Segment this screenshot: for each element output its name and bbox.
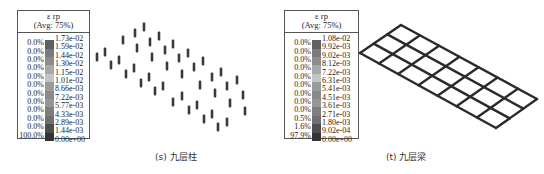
column-element [193,63,196,72]
caption-t: (t) 九层梁 [386,150,426,163]
legend-value: 0.00e+00 [55,136,85,144]
column-element [188,106,191,115]
legend-color-swatch [45,124,54,132]
column-element [149,38,152,47]
column-element [187,49,190,58]
column-element [133,64,136,73]
column-element [143,23,146,32]
column-element [211,110,214,119]
column-element [110,61,113,70]
legend-color-swatch [45,99,54,107]
column-element [148,73,151,82]
column-element [220,68,223,77]
legend-color-swatch [312,116,321,124]
column-element [178,54,181,63]
column-element [122,36,125,45]
legend-color-swatch [312,82,321,90]
legend-t: ε rp (Avg: 75%) 1.08e-029.92e-039.02e-03… [284,10,359,139]
legend-percent: 100.0% [18,132,44,140]
column-element [226,82,229,91]
column-element [214,89,217,98]
caption-s: (s) 九层柱 [155,150,197,163]
column-element [181,92,184,101]
legend-color-swatch [312,99,321,107]
column-element [104,48,107,57]
column-element [226,118,229,127]
legend-color-swatch [45,91,54,99]
column-element [211,73,214,82]
legend-color-swatch [45,133,54,141]
legend-color-swatch [312,49,321,57]
legend-color-swatch [312,133,321,141]
beam-element [374,44,510,119]
column-element [134,29,137,38]
column-model-figure [88,18,258,136]
legend-subtitle: (Avg: 75%) [18,21,89,30]
column-element [166,62,169,71]
column-element [172,98,175,107]
column-element [199,81,202,90]
legend-header: ε rp (Avg: 75%) [18,11,89,33]
legend-color-swatch [312,40,321,48]
column-element [162,82,165,91]
column-element [244,107,247,116]
column-element [151,53,154,62]
column-element [164,46,167,55]
legend-color-swatch [312,124,321,132]
beam-grid-figure [355,20,544,136]
legend-color-swatch [312,91,321,99]
legend-color-swatch [45,40,54,48]
column-element [118,56,121,65]
column-element [172,40,175,49]
column-element [217,123,220,132]
column-element [229,99,232,108]
legend-s: ε rp (Avg: 75%) 1.73e-021.59e-021.44e-02… [17,10,90,139]
column-element [125,70,128,79]
legend-color-swatch [312,107,321,115]
column-element [236,76,239,85]
legend-subtitle: (Avg: 75%) [285,21,358,30]
legend-color-swatch [312,65,321,73]
column-element [136,44,139,53]
legend-percent: 97.9% [285,132,311,140]
legend-color-swatch [45,74,54,82]
column-element [158,32,161,41]
column-element [242,91,245,100]
column-element [96,53,99,62]
legend-color-swatch [45,82,54,90]
legend-color-swatch [45,116,54,124]
legend-color-swatch [45,107,54,115]
legend-value: 0.00e+00 [322,136,352,144]
legend-color-swatch [45,57,54,65]
legend-color-swatch [312,74,321,82]
legend-color-swatch [45,65,54,73]
column-element [203,115,206,124]
legend-header: ε rp (Avg: 75%) [285,11,358,33]
column-element [140,79,143,88]
legend-color-swatch [45,49,54,57]
column-element [196,101,199,110]
column-element [202,57,205,66]
beam-element [387,34,523,108]
column-element [181,70,184,79]
column-element [154,87,157,96]
legend-color-swatch [312,57,321,65]
